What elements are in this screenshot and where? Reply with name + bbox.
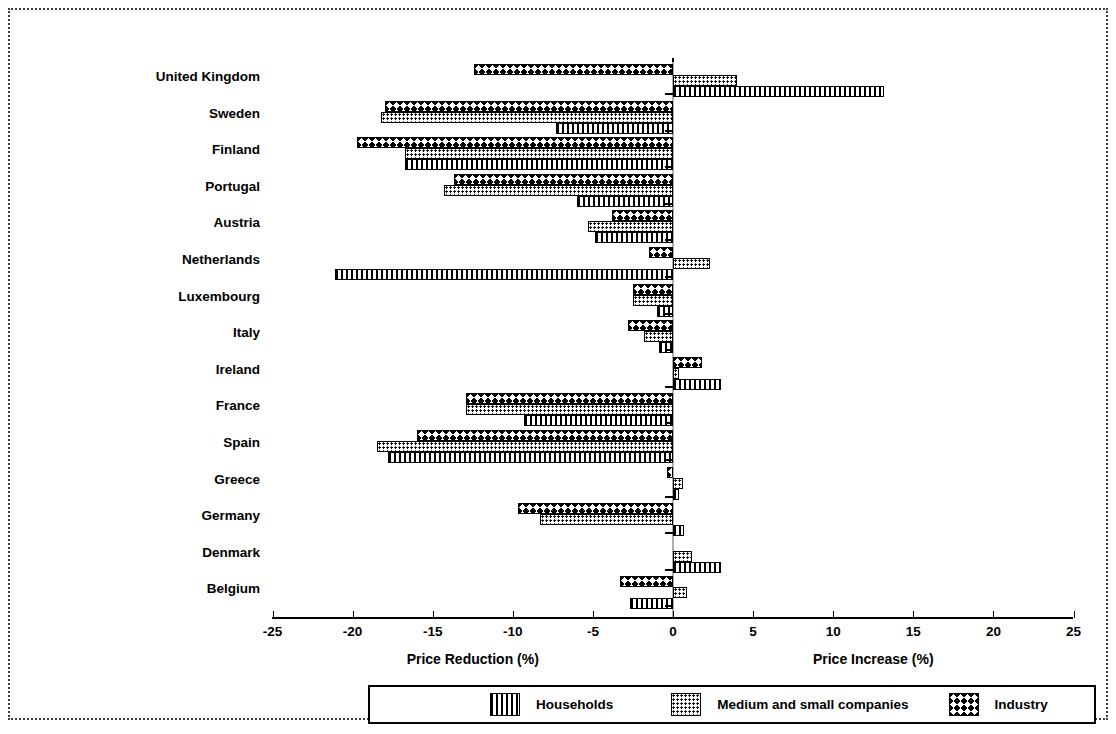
- bar-industry: [357, 137, 673, 148]
- bar-households: [405, 159, 673, 170]
- bar-households: [577, 196, 673, 207]
- bar-households: [673, 562, 721, 573]
- bar-medium-and-small-companies: [673, 478, 683, 489]
- bar-industry: [620, 576, 673, 587]
- x-tick-mark: [993, 611, 994, 618]
- legend-entry-households: Households: [490, 693, 613, 716]
- bar-medium-and-small-companies: [444, 185, 673, 196]
- category-axis-tick: [665, 532, 673, 534]
- category-label: Germany: [201, 509, 260, 523]
- category-label: Belgium: [207, 582, 260, 596]
- x-tick-mark: [273, 611, 274, 618]
- medium-companies-pattern-swatch-icon: [671, 693, 701, 716]
- category-axis-tick: [665, 276, 673, 278]
- x-tick-label: 10: [826, 624, 841, 639]
- bar-households: [659, 342, 673, 353]
- bar-medium-and-small-companies: [377, 441, 673, 452]
- bar-medium-and-small-companies: [633, 295, 673, 306]
- legend-entry-medium: Medium and small companies: [671, 693, 908, 716]
- x-tick-label: -10: [503, 624, 523, 639]
- bar-medium-and-small-companies: [673, 258, 710, 269]
- category-axis-tick: [665, 459, 673, 461]
- bar-medium-and-small-companies: [644, 331, 673, 342]
- legend-label-medium: Medium and small companies: [717, 697, 908, 712]
- category-axis-tick: [665, 130, 673, 132]
- bar-households: [556, 123, 673, 134]
- x-tick-mark: [513, 611, 514, 618]
- category-axis-tick: [665, 569, 673, 571]
- category-axis-tick: [665, 166, 673, 168]
- bar-households: [673, 489, 679, 500]
- bar-industry: [385, 101, 673, 112]
- category-label: France: [216, 399, 260, 413]
- x-tick-mark: [673, 611, 674, 618]
- category-label: Finland: [212, 143, 260, 157]
- category-label: Austria: [213, 216, 260, 230]
- households-pattern-swatch-icon: [490, 693, 520, 716]
- category-label: Spain: [223, 436, 260, 450]
- x-tick-label: -15: [423, 624, 443, 639]
- x-tick-label: -20: [343, 624, 363, 639]
- bar-industry: [474, 64, 673, 75]
- bar-industry: [673, 357, 702, 368]
- x-tick-label: -5: [587, 624, 599, 639]
- category-label: Portugal: [205, 180, 260, 194]
- bar-households: [673, 379, 721, 390]
- bar-households: [630, 598, 673, 609]
- bar-medium-and-small-companies: [588, 221, 673, 232]
- category-axis-tick: [665, 93, 673, 95]
- industry-pattern-swatch-icon: [949, 693, 979, 716]
- x-tick-mark: [753, 611, 754, 618]
- category-label: Netherlands: [182, 253, 260, 267]
- x-tick-mark: [353, 611, 354, 618]
- bar-industry: [667, 467, 673, 478]
- bar-industry: [612, 210, 673, 221]
- bar-medium-and-small-companies: [673, 587, 687, 598]
- x-tick-mark: [913, 611, 914, 618]
- bar-industry: [518, 503, 673, 514]
- bar-medium-and-small-companies: [673, 551, 692, 562]
- bar-industry: [466, 393, 673, 404]
- bar-medium-and-small-companies: [673, 368, 679, 379]
- category-axis-tick: [665, 605, 673, 607]
- legend-entry-industry: Industry: [949, 693, 1048, 716]
- x-tick-mark: [593, 611, 594, 618]
- bar-industry: [628, 320, 673, 331]
- category-axis-tick: [665, 203, 673, 205]
- category-label: United Kingdom: [156, 70, 260, 84]
- category-label: Sweden: [209, 107, 260, 121]
- x-tick-mark: [433, 611, 434, 618]
- x-tick-label: -25: [263, 624, 283, 639]
- bar-industry: [454, 174, 673, 185]
- bar-medium-and-small-companies: [540, 514, 673, 525]
- category-axis-tick: [665, 239, 673, 241]
- x-tick-label: 5: [749, 624, 757, 639]
- bar-households: [388, 452, 673, 463]
- bar-medium-and-small-companies: [673, 75, 737, 86]
- x-tick-mark: [1074, 611, 1075, 618]
- bar-industry: [417, 430, 673, 441]
- category-axis-tick: [665, 386, 673, 388]
- category-axis-tick: [665, 422, 673, 424]
- category-label-column: United KingdomSwedenFinlandPortugalAustr…: [110, 0, 260, 734]
- x-tick-mark: [833, 611, 834, 618]
- category-label: Ireland: [216, 363, 260, 377]
- category-label: Denmark: [202, 546, 260, 560]
- chart-page: United KingdomSwedenFinlandPortugalAustr…: [0, 0, 1116, 734]
- bar-chart-plot-area: United KingdomSwedenFinlandPortugalAustr…: [0, 0, 1116, 734]
- category-axis-tick: [665, 349, 673, 351]
- zero-axis-top-tick: [672, 58, 674, 62]
- x-axis-title-right: Price Increase (%): [813, 651, 934, 667]
- legend-label-industry: Industry: [995, 697, 1048, 712]
- category-label: Italy: [233, 326, 260, 340]
- bar-households: [657, 306, 673, 317]
- x-tick-label: 25: [1066, 624, 1081, 639]
- bar-households: [673, 86, 884, 97]
- bar-medium-and-small-companies: [381, 112, 673, 123]
- x-tick-label: 15: [906, 624, 921, 639]
- bar-households: [524, 415, 673, 426]
- bar-industry: [633, 284, 673, 295]
- x-axis-title-left: Price Reduction (%): [407, 651, 539, 667]
- category-axis-tick: [665, 496, 673, 498]
- bar-households: [673, 525, 684, 536]
